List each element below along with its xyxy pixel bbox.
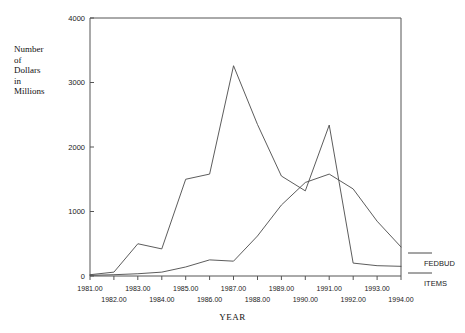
x-tick-label-1987: 1987.00 [221,285,246,292]
legend-label-items: ITEMS [424,279,447,288]
x-axis-title-text: YEAR [219,312,246,322]
x-tick-label-1983: 1983.00 [125,285,150,292]
x-axis-ticks [90,276,401,280]
x-tick-label-1986: 1986.00 [197,296,222,303]
y-tick-label-1000: 1000 [68,207,85,216]
chart-canvas: 0 1000 2000 3000 4000 1981.00 1982 [0,0,465,333]
y-tick-label-2000: 2000 [68,143,85,152]
legend-label-fedbud: FEDBUD [424,259,455,268]
x-tick-label-1991: 1991.00 [317,285,342,292]
x-axis-tick-labels: 1981.00 1982.00 1983.00 1984.00 1985.00 … [77,285,413,303]
x-tick-label-1994: 1994.00 [388,296,413,303]
x-axis-title: YEAR [0,312,465,322]
x-tick-label-1985: 1985.00 [173,285,198,292]
x-tick-label-1981: 1981.00 [77,285,102,292]
y-tick-label-4000: 4000 [68,14,85,23]
y-tick-label-3000: 3000 [68,78,85,87]
x-tick-label-1993: 1993.00 [364,285,389,292]
x-tick-label-1992: 1992.00 [341,296,366,303]
x-tick-label-1988: 1988.00 [245,296,270,303]
y-axis-tick-labels: 0 1000 2000 3000 4000 [68,14,85,281]
x-tick-label-1982: 1982.00 [101,296,126,303]
y-tick-label-0: 0 [81,272,85,281]
line-chart: Number of Dollars in Millions 0 1000 200… [0,0,465,333]
series-line-items [90,174,401,275]
series-line-fedbud [90,66,401,275]
x-tick-label-1990: 1990.00 [293,296,318,303]
chart-legend: FEDBUD ITEMS [408,253,455,288]
x-tick-label-1989: 1989.00 [269,285,294,292]
y-axis-ticks [90,18,94,276]
x-tick-label-1984: 1984.00 [149,296,174,303]
